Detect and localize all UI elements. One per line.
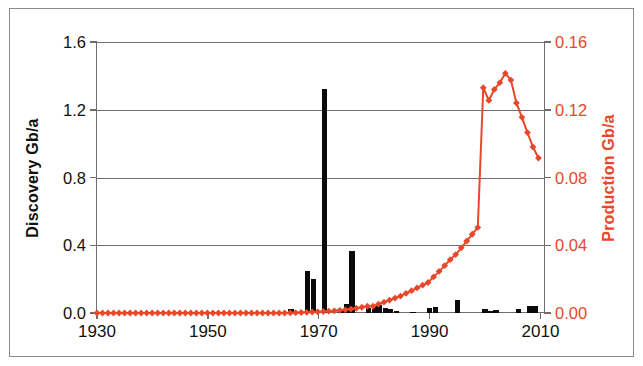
production-data-marker bbox=[336, 307, 343, 314]
y-axis-tick-label-left: 1.2 bbox=[63, 100, 86, 119]
y-axis-tick-label-right: 0.08 bbox=[555, 168, 587, 187]
y-axis-title-right: Production Gb/a bbox=[597, 42, 621, 313]
production-data-marker bbox=[392, 295, 399, 302]
y-axis-tick-left bbox=[90, 109, 97, 111]
y-axis-tick-right bbox=[544, 177, 551, 179]
production-data-marker bbox=[386, 297, 393, 304]
y-axis-tick-right bbox=[544, 312, 551, 314]
production-data-marker bbox=[480, 84, 487, 91]
x-axis-tick-label: 1930 bbox=[78, 322, 116, 342]
production-data-marker bbox=[519, 114, 526, 121]
y-axis-tick-right bbox=[544, 109, 551, 111]
production-data-marker bbox=[342, 306, 349, 313]
production-data-marker bbox=[408, 287, 415, 294]
y-axis-title-right-text: Production Gb/a bbox=[600, 114, 618, 241]
x-axis-tick bbox=[540, 313, 542, 319]
y-axis-title-left-text: Discovery Gb/a bbox=[24, 118, 42, 237]
production-data-marker bbox=[370, 303, 377, 310]
production-data-marker bbox=[359, 304, 366, 311]
production-data-marker bbox=[353, 305, 360, 312]
x-axis-tick-label: 1970 bbox=[300, 322, 338, 342]
production-line-series bbox=[97, 42, 544, 313]
y-axis-title-left: Discovery Gb/a bbox=[21, 42, 45, 313]
y-axis-tick-left bbox=[90, 245, 97, 247]
y-axis-tick-right bbox=[544, 41, 551, 43]
x-axis-tick bbox=[429, 313, 431, 319]
x-axis-tick-label: 1950 bbox=[189, 322, 227, 342]
production-data-marker bbox=[530, 144, 537, 151]
y-axis-tick-left bbox=[90, 177, 97, 179]
production-data-marker bbox=[524, 129, 531, 136]
y-axis-tick-right bbox=[544, 245, 551, 247]
y-axis-tick-label-right: 0.04 bbox=[555, 236, 587, 255]
production-data-marker bbox=[347, 306, 354, 313]
y-axis-tick-label-left: 0.8 bbox=[63, 168, 86, 187]
production-data-marker bbox=[403, 290, 410, 297]
production-line-path bbox=[97, 73, 538, 313]
y-axis-tick-label-left: 0.4 bbox=[63, 236, 86, 255]
figure-root: Discovery Gb/a Production Gb/a 0.00.000.… bbox=[0, 0, 643, 366]
production-data-marker bbox=[535, 155, 542, 162]
production-data-marker bbox=[397, 293, 404, 300]
y-axis-tick-label-right: 0.16 bbox=[555, 33, 587, 52]
production-data-marker bbox=[419, 282, 426, 289]
production-data-marker bbox=[375, 301, 382, 308]
plot-area: 0.00.000.40.040.80.081.20.121.60.1619301… bbox=[96, 42, 545, 313]
x-axis-tick-label: 1990 bbox=[411, 322, 449, 342]
production-data-marker bbox=[381, 299, 388, 306]
y-axis-tick-label-right: 0.00 bbox=[555, 304, 587, 323]
production-data-marker bbox=[414, 285, 421, 292]
y-axis-tick-label-right: 0.12 bbox=[555, 100, 587, 119]
y-axis-tick-left bbox=[90, 41, 97, 43]
x-axis-tick-label: 2010 bbox=[522, 322, 560, 342]
production-data-marker bbox=[513, 100, 520, 107]
y-axis-tick-label-left: 1.6 bbox=[63, 33, 86, 52]
production-data-marker bbox=[485, 97, 492, 104]
y-axis-tick-label-left: 0.0 bbox=[63, 304, 86, 323]
